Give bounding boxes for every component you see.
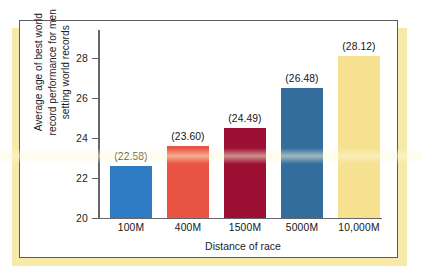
y-tick-label-22: 22 [62, 172, 88, 184]
bar-chart-plot-area: 28 26 24 22 20 Average age of best world… [0, 0, 421, 277]
y-axis-title-line-3: setting world records [59, 0, 73, 162]
y-tick-mark-26 [92, 98, 98, 99]
bar-value-label-1500m: (24.49) [210, 113, 280, 124]
bar-value-label-5000m: (26.48) [267, 73, 337, 84]
bar-1500m: (24.49) [224, 128, 266, 218]
y-tick-mark-24 [92, 138, 98, 139]
x-tick-label-10000m: 10,000M [319, 222, 399, 233]
y-tick-label-20: 20 [62, 212, 88, 224]
bar-value-label-10000m: (28.12) [324, 41, 394, 52]
y-axis-title-line-2: record performance for men [45, 0, 59, 162]
y-tick-mark-28 [92, 58, 98, 59]
y-axis-title: Average age of best world record perform… [32, 0, 73, 162]
bar-5000m: (26.48) [281, 88, 323, 218]
y-tick-label-22-wrap: 22 [62, 172, 88, 185]
x-axis-title: Distance of race [98, 240, 388, 252]
y-axis-line [98, 30, 100, 219]
bar-value-label-100m: (22.58) [96, 151, 166, 162]
y-tick-mark-22 [92, 178, 98, 179]
bar-100m: (22.58) [110, 166, 152, 218]
bar-10000m: (28.12) [338, 56, 380, 218]
y-tick-mark-20 [92, 218, 98, 219]
bar-value-label-400m: (23.60) [153, 131, 223, 142]
bar-400m: (23.60) [167, 146, 209, 218]
figure-root: 28 26 24 22 20 Average age of best world… [0, 0, 421, 277]
y-tick-label-20-wrap: 20 [62, 212, 88, 225]
y-axis-title-line-1: Average age of best world [32, 0, 46, 162]
